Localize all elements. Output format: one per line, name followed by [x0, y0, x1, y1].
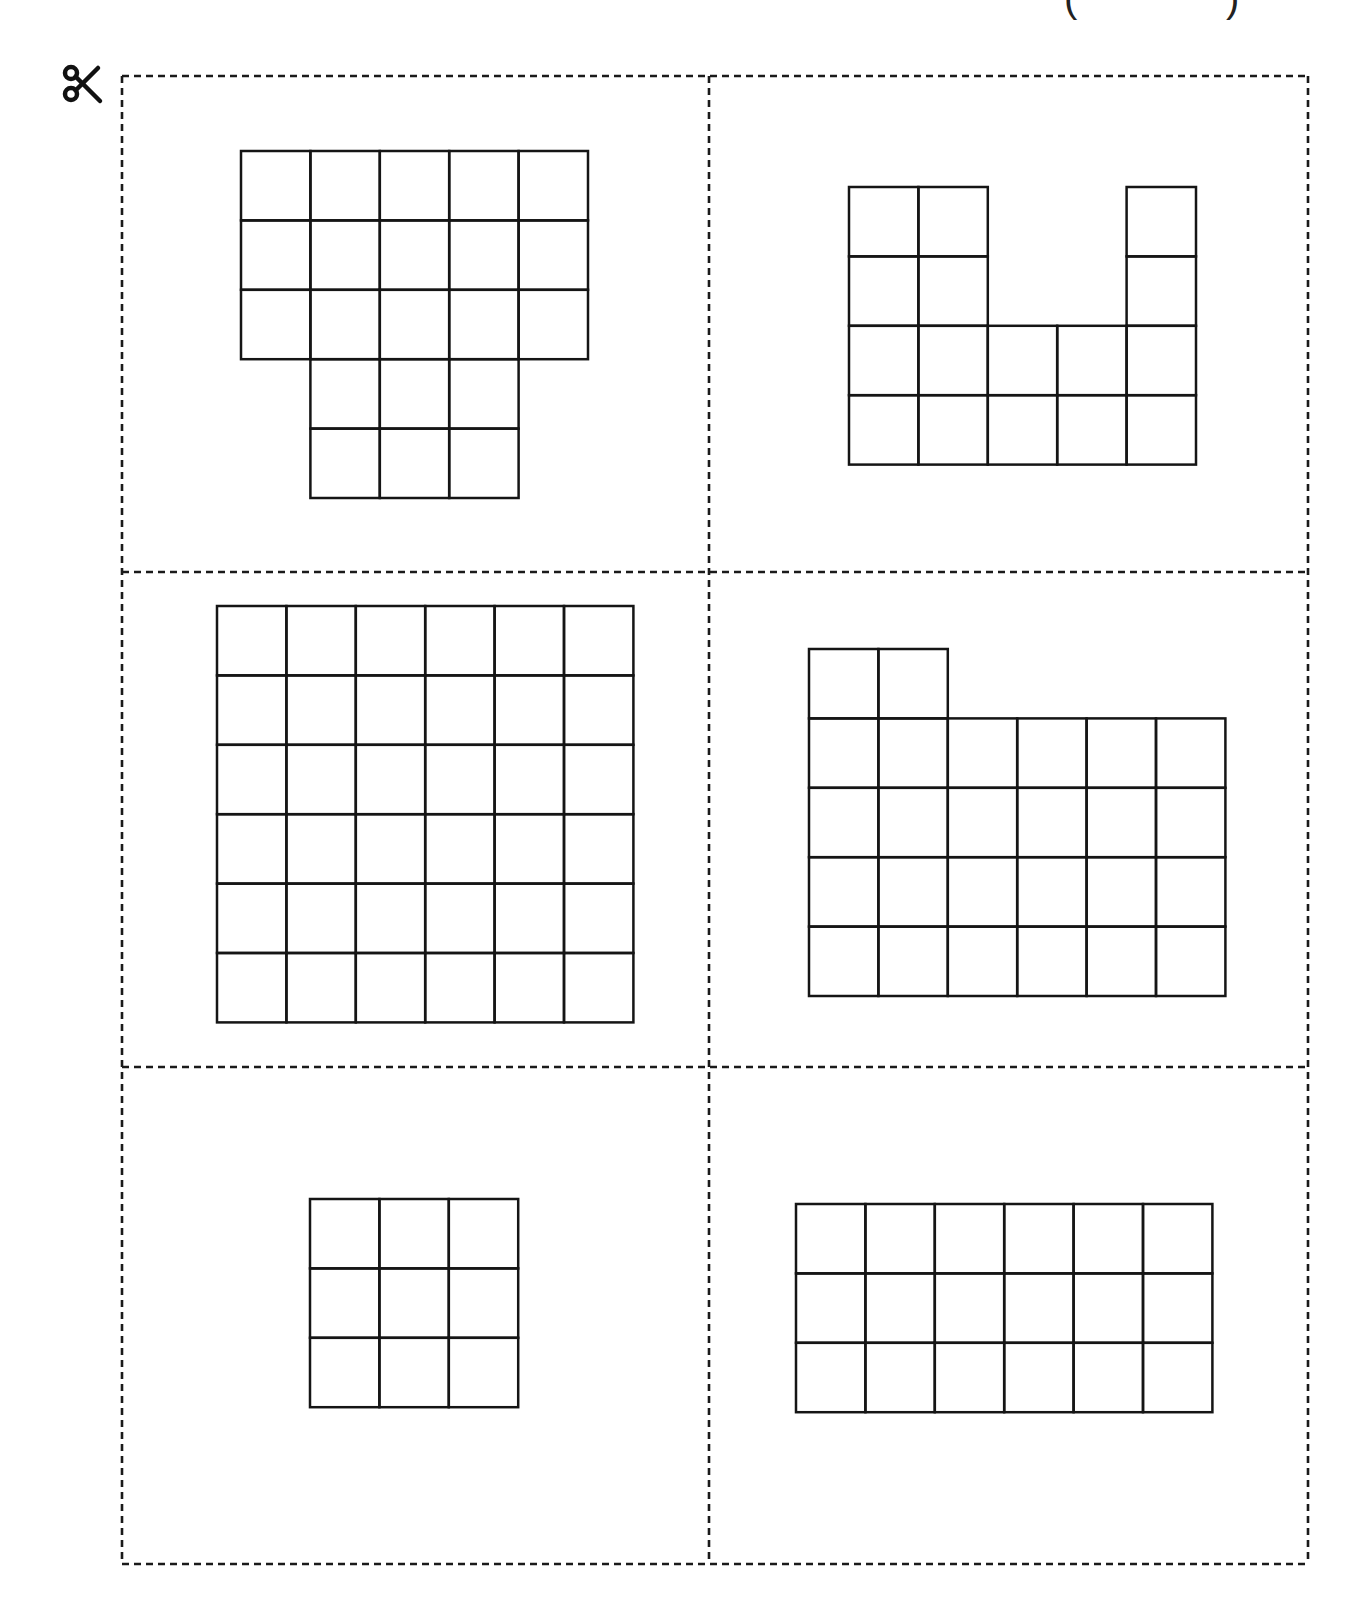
- unit-square: [849, 187, 918, 256]
- unit-square: [935, 1204, 1004, 1273]
- unit-square: [217, 745, 286, 814]
- unit-square: [878, 718, 947, 787]
- unit-square: [495, 953, 564, 1022]
- unit-square: [495, 606, 564, 675]
- dashed-cut-lines: [122, 76, 1308, 1564]
- unit-square: [310, 1268, 379, 1337]
- unit-square: [425, 675, 494, 744]
- unit-square: [809, 857, 878, 926]
- unit-square: [809, 788, 878, 857]
- unit-square: [241, 151, 310, 220]
- unit-square: [809, 718, 878, 787]
- unit-square: [356, 745, 425, 814]
- unit-square: [519, 220, 588, 289]
- unit-square: [356, 884, 425, 953]
- unit-square: [918, 326, 987, 395]
- unit-square: [796, 1343, 865, 1412]
- unit-square: [1127, 326, 1196, 395]
- unit-square: [1156, 857, 1225, 926]
- unit-square: [286, 606, 355, 675]
- card-4-shape: [809, 649, 1225, 996]
- unit-square: [948, 857, 1017, 926]
- unit-square: [286, 745, 355, 814]
- unit-square: [1017, 927, 1086, 996]
- unit-square: [948, 788, 1017, 857]
- unit-square: [564, 745, 633, 814]
- unit-square: [310, 359, 379, 428]
- unit-square: [1143, 1273, 1212, 1342]
- unit-square: [449, 1268, 518, 1337]
- unit-square: [449, 1199, 518, 1268]
- unit-square: [988, 326, 1057, 395]
- unit-square: [918, 256, 987, 325]
- unit-square: [564, 884, 633, 953]
- unit-square: [1127, 256, 1196, 325]
- unit-square: [865, 1343, 934, 1412]
- unit-square: [988, 395, 1057, 464]
- unit-square: [809, 927, 878, 996]
- unit-square: [878, 857, 947, 926]
- unit-square: [449, 151, 518, 220]
- unit-square: [310, 429, 379, 498]
- worksheet-page: ( ): [0, 0, 1362, 1612]
- unit-square: [425, 814, 494, 883]
- unit-square: [379, 1199, 448, 1268]
- unit-square: [865, 1273, 934, 1342]
- unit-square: [241, 290, 310, 359]
- unit-square: [1087, 927, 1156, 996]
- unit-square: [356, 953, 425, 1022]
- unit-square: [425, 745, 494, 814]
- unit-square: [356, 675, 425, 744]
- unit-square: [564, 606, 633, 675]
- unit-square: [1017, 857, 1086, 926]
- unit-square: [1087, 718, 1156, 787]
- unit-square: [449, 220, 518, 289]
- unit-square: [310, 290, 379, 359]
- unit-square: [865, 1204, 934, 1273]
- unit-square: [495, 884, 564, 953]
- unit-square: [217, 884, 286, 953]
- unit-square: [1156, 718, 1225, 787]
- unit-square: [519, 290, 588, 359]
- card-3-shape: [217, 606, 633, 1022]
- unit-square: [1143, 1204, 1212, 1273]
- unit-square: [519, 151, 588, 220]
- unit-square: [849, 326, 918, 395]
- unit-square: [286, 814, 355, 883]
- unit-square: [217, 675, 286, 744]
- unit-square: [935, 1273, 1004, 1342]
- unit-square: [1143, 1343, 1212, 1412]
- unit-square: [217, 606, 286, 675]
- unit-square: [935, 1343, 1004, 1412]
- unit-square: [379, 1338, 448, 1407]
- unit-square: [1087, 788, 1156, 857]
- unit-square: [356, 606, 425, 675]
- unit-square: [918, 395, 987, 464]
- unit-square: [849, 395, 918, 464]
- unit-square: [1127, 395, 1196, 464]
- unit-square: [809, 649, 878, 718]
- unit-square: [380, 290, 449, 359]
- unit-square: [241, 220, 310, 289]
- unit-square: [380, 429, 449, 498]
- unit-square: [310, 220, 379, 289]
- unit-square: [1004, 1273, 1073, 1342]
- unit-square: [1017, 718, 1086, 787]
- unit-square: [425, 953, 494, 1022]
- unit-square: [878, 649, 947, 718]
- unit-square: [449, 359, 518, 428]
- unit-square: [1004, 1204, 1073, 1273]
- unit-square: [1087, 857, 1156, 926]
- unit-square: [1017, 788, 1086, 857]
- unit-square: [380, 151, 449, 220]
- unit-square: [1156, 927, 1225, 996]
- unit-square: [380, 359, 449, 428]
- unit-square: [1057, 395, 1126, 464]
- card-2-shape: [849, 187, 1196, 465]
- card-5-shape: [310, 1199, 518, 1407]
- unit-square: [310, 1338, 379, 1407]
- unit-square: [564, 675, 633, 744]
- unit-square: [1074, 1343, 1143, 1412]
- unit-square: [425, 606, 494, 675]
- unit-square: [796, 1204, 865, 1273]
